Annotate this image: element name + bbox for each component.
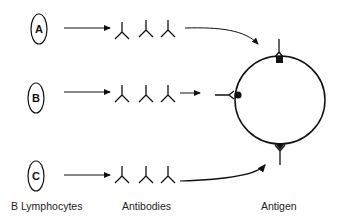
label-b-lymphocytes: B Lymphocytes [11, 200, 82, 212]
b-cell-b-label: B [32, 92, 40, 104]
antibodies-row-b [115, 85, 175, 102]
arrow-a-to-antigen [185, 28, 258, 44]
arrow-c-to-antigen [180, 165, 265, 181]
b-cell-a-label: A [35, 23, 43, 35]
b-cell-c-label: C [32, 170, 40, 182]
diagram-canvas [0, 0, 352, 220]
label-antigen: Antigen [261, 200, 297, 212]
epitope-top [275, 39, 283, 63]
antibodies-row-c [115, 166, 175, 183]
antigen-shape [235, 56, 325, 144]
epitope-bottom [275, 143, 285, 165]
epitope-left [215, 91, 242, 99]
antibodies-row-a [115, 20, 175, 39]
label-antibodies: Antibodies [122, 200, 171, 212]
